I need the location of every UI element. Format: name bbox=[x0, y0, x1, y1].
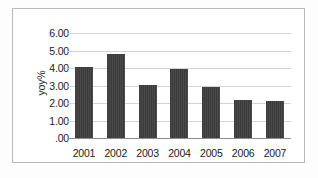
bar bbox=[202, 87, 220, 138]
x-axis-tick-labels: 2001200220032004200520062007 bbox=[68, 147, 291, 159]
x-axis-tick-label: 2001 bbox=[69, 147, 99, 159]
bar bbox=[107, 54, 125, 138]
x-axis-tick-label: 2005 bbox=[196, 147, 226, 159]
y-axis-tick-label: 6.00 bbox=[33, 28, 69, 39]
chart-page: yoy% 6.005.004.003.002.001.00.00 2001200… bbox=[0, 0, 318, 178]
bar-series bbox=[68, 33, 291, 138]
y-axis-tick-label: 2.00 bbox=[33, 98, 69, 109]
bar bbox=[139, 85, 157, 138]
chart-frame: yoy% 6.005.004.003.002.001.00.00 2001200… bbox=[12, 8, 305, 163]
y-axis-tick-label: .00 bbox=[33, 133, 69, 144]
bar bbox=[170, 69, 188, 138]
y-axis-tick-label: 3.00 bbox=[33, 81, 69, 92]
x-axis-line bbox=[68, 138, 291, 139]
y-axis-tick-label: 1.00 bbox=[33, 116, 69, 127]
y-axis-tick-labels: 6.005.004.003.002.001.00.00 bbox=[33, 33, 69, 146]
x-axis-tick-label: 2007 bbox=[260, 147, 290, 159]
y-axis-tick-label: 5.00 bbox=[33, 46, 69, 57]
x-axis-tick-label: 2002 bbox=[101, 147, 131, 159]
x-axis-tick-label: 2006 bbox=[228, 147, 258, 159]
x-axis-tick-label: 2004 bbox=[164, 147, 194, 159]
bar bbox=[75, 67, 93, 138]
y-axis-tick-label: 4.00 bbox=[33, 63, 69, 74]
bar bbox=[266, 101, 284, 138]
bar bbox=[234, 100, 252, 139]
x-axis-tick-label: 2003 bbox=[133, 147, 163, 159]
